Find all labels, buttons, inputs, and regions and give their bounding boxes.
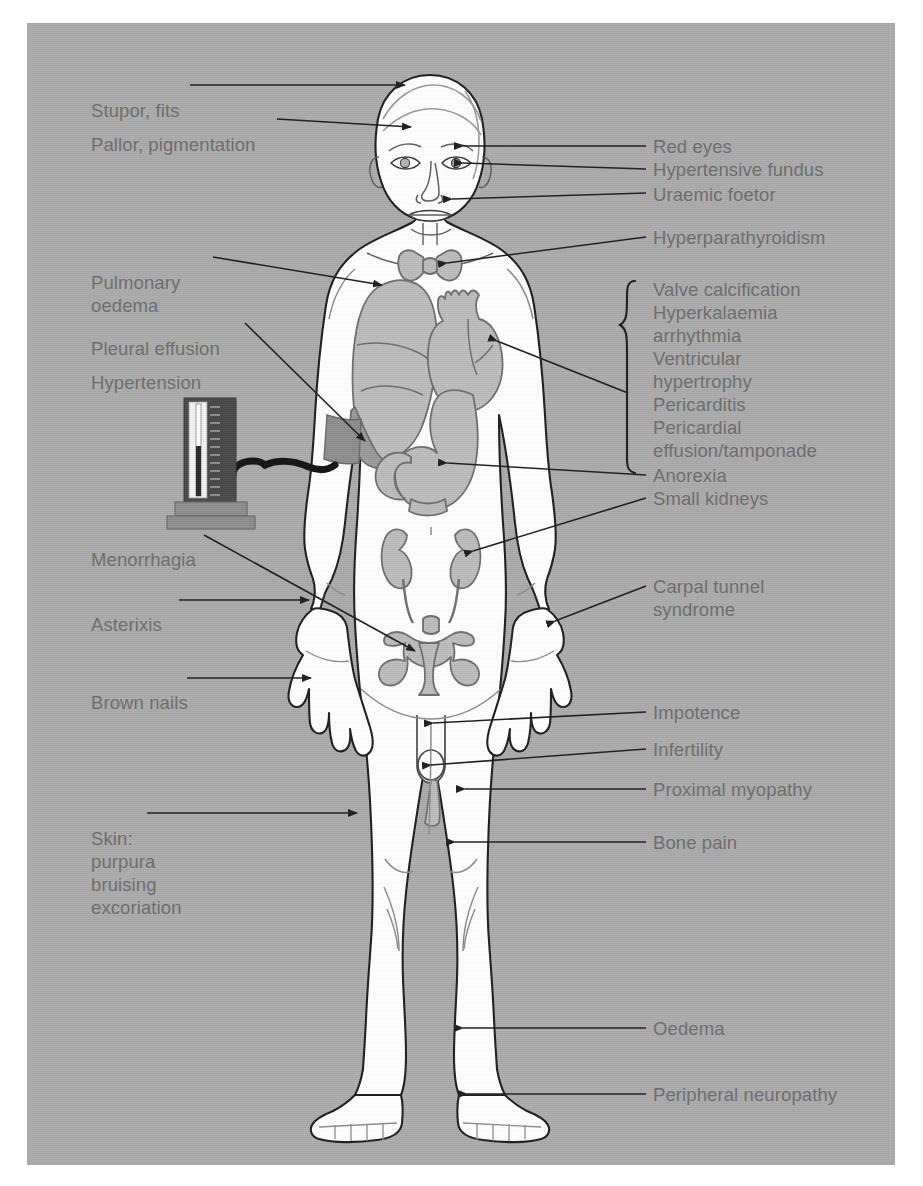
body-figure bbox=[304, 75, 556, 1095]
label-ventricular: Ventricular bbox=[653, 347, 742, 370]
label-arrhythmia: arrhythmia bbox=[653, 324, 741, 347]
label-hypertension: Hypertension bbox=[91, 371, 201, 394]
label-asterixis: Asterixis bbox=[91, 613, 162, 636]
label-pallor-pigmentation: Pallor, pigmentation bbox=[91, 133, 256, 156]
label-hyperkalaemia: Hyperkalaemia bbox=[653, 301, 778, 324]
label-stupor-fits: Stupor, fits bbox=[91, 99, 180, 122]
bp-cuff bbox=[324, 415, 361, 464]
figure-panel: Stupor, fits Pallor, pigmentation Pulmon… bbox=[27, 23, 895, 1165]
label-hypertrophy: hypertrophy bbox=[653, 370, 752, 393]
label-pleural-effusion: Pleural effusion bbox=[91, 337, 220, 360]
leader-carpal-tunnel bbox=[555, 586, 646, 621]
label-effusion-tamponade: effusion/tamponade bbox=[653, 439, 817, 462]
label-infertility: Infertility bbox=[653, 738, 723, 761]
foot-right bbox=[457, 1095, 549, 1142]
bp-base-upper bbox=[175, 502, 247, 516]
bp-base-lower bbox=[167, 516, 255, 529]
label-skin: Skin: bbox=[91, 827, 133, 850]
label-skin-excoriation: excoriation bbox=[91, 896, 182, 919]
label-impotence: Impotence bbox=[653, 701, 740, 724]
bladder bbox=[423, 616, 439, 634]
label-red-eyes: Red eyes bbox=[653, 135, 732, 158]
label-pericarditis: Pericarditis bbox=[653, 393, 746, 416]
label-skin-purpura: purpura bbox=[91, 850, 155, 873]
leader-uraemic-foetor bbox=[452, 193, 646, 199]
label-proximal-myopathy: Proximal myopathy bbox=[653, 778, 812, 801]
label-valve-calcification: Valve calcification bbox=[653, 278, 801, 301]
label-menorrhagia: Menorrhagia bbox=[91, 548, 196, 571]
label-peripheral-neuropathy: Peripheral neuropathy bbox=[653, 1083, 837, 1106]
label-hyperparathyroidism: Hyperparathyroidism bbox=[653, 226, 826, 249]
label-oedema: Oedema bbox=[653, 1017, 725, 1040]
label-pulmonary-oedema-2: oedema bbox=[91, 294, 158, 317]
label-carpal-tunnel: Carpal tunnel bbox=[653, 575, 764, 598]
label-small-kidneys: Small kidneys bbox=[653, 487, 768, 510]
label-carpal-tunnel-2: syndrome bbox=[653, 598, 735, 621]
label-bone-pain: Bone pain bbox=[653, 831, 737, 854]
label-hypertensive-fundus: Hypertensive fundus bbox=[653, 158, 824, 181]
label-pulmonary-oedema: Pulmonary bbox=[91, 271, 180, 294]
cardiac-bracket bbox=[620, 281, 635, 473]
label-skin-bruising: bruising bbox=[91, 873, 157, 896]
label-pericardial: Pericardial bbox=[653, 416, 742, 439]
label-uraemic-foetor: Uraemic foetor bbox=[653, 183, 776, 206]
foot-left bbox=[311, 1095, 403, 1142]
eye-left bbox=[391, 157, 420, 169]
label-anorexia: Anorexia bbox=[653, 464, 727, 487]
label-brown-nails: Brown nails bbox=[91, 691, 188, 714]
